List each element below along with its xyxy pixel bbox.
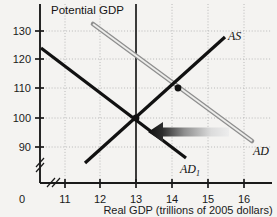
chart-svg: 130 120 110 100 90 0 11 12 13 14 15 16 R… [0, 0, 277, 217]
y-tick-label-100: 100 [13, 112, 31, 124]
as-ad-chart-figure: 130 120 110 100 90 0 11 12 13 14 15 16 R… [0, 0, 277, 217]
x-axis-title: Real GDP (trillions of 2005 dollars) [103, 204, 272, 216]
y-tick-label-130: 130 [13, 25, 31, 37]
x-tick-label-11: 11 [59, 193, 70, 205]
potential-gdp-label: Potential GDP [51, 4, 124, 16]
as-curve-label: AS [227, 29, 241, 43]
ad-curve-label: AD [252, 144, 269, 158]
ad1-curve-subscript: 1 [196, 169, 200, 178]
equilibrium-point-13-100 [133, 115, 140, 122]
y-tick-label-120: 120 [13, 53, 31, 65]
y-tick-label-90: 90 [19, 141, 31, 153]
equilibrium-point-14-110 [175, 85, 182, 92]
ad1-curve-label: AD [179, 162, 196, 176]
origin-label-0: 0 [19, 193, 25, 205]
y-tick-label-110: 110 [13, 82, 31, 94]
